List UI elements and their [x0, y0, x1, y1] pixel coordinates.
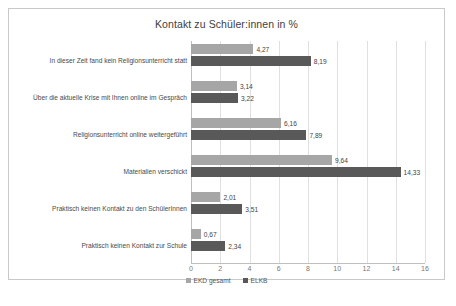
- x-axis-line: [191, 263, 425, 264]
- category-row: Religionsunterricht online weitergeführt…: [191, 115, 425, 152]
- legend-label: EKD gesamt: [194, 277, 231, 284]
- bar-ekd-gesamt[interactable]: [191, 44, 253, 54]
- category-label: In dieser Zeit fand kein Religionsunterr…: [50, 56, 187, 63]
- x-tick-label: 2: [218, 265, 222, 272]
- bar-elkb[interactable]: [191, 241, 225, 251]
- legend-item[interactable]: ELKB: [243, 277, 268, 284]
- plot-area: In dieser Zeit fand kein Religionsunterr…: [191, 41, 425, 263]
- category-label: Materialien verschickt: [124, 167, 187, 174]
- category-label: Über die aktuelle Krise mit Ihnen online…: [33, 93, 187, 100]
- bar-value-label: 2,34: [228, 243, 241, 250]
- x-tick-label: 4: [248, 265, 252, 272]
- bar-value-label: 14,33: [404, 169, 421, 176]
- category-row: Praktisch keinen Kontakt zur Schule0,672…: [191, 226, 425, 263]
- bar-value-label: 7,89: [309, 132, 322, 139]
- x-tick-label: 8: [306, 265, 310, 272]
- bar-ekd-gesamt[interactable]: [191, 155, 332, 165]
- category-label: Praktisch keinen Kontakt zu den SchülerI…: [52, 204, 187, 211]
- x-tick-label: 14: [392, 265, 400, 272]
- category-row: Praktisch keinen Kontakt zu den SchülerI…: [191, 189, 425, 226]
- bar-value-label: 2,01: [223, 194, 236, 201]
- gridline: [425, 41, 426, 263]
- legend-swatch-icon: [243, 278, 248, 283]
- bar-value-label: 8,19: [314, 58, 327, 65]
- bar-value-label: 9,64: [335, 157, 348, 164]
- category-row: Über die aktuelle Krise mit Ihnen online…: [191, 78, 425, 115]
- chart-frame: Kontakt zu Schüler:innen in % In dieser …: [8, 8, 445, 280]
- bar-value-label: 6,16: [284, 120, 297, 127]
- chart-title: Kontakt zu Schüler:innen in %: [9, 18, 444, 30]
- bar-value-label: 3,14: [240, 83, 253, 90]
- bar-elkb[interactable]: [191, 56, 311, 66]
- bar-elkb[interactable]: [191, 167, 401, 177]
- chart-page: Kontakt zu Schüler:innen in % In dieser …: [0, 0, 456, 306]
- x-tick-label: 10: [333, 265, 341, 272]
- bar-elkb[interactable]: [191, 93, 238, 103]
- bar-value-label: 0,67: [204, 231, 217, 238]
- x-tick-label: 16: [421, 265, 429, 272]
- bar-ekd-gesamt[interactable]: [191, 118, 281, 128]
- legend-swatch-icon: [186, 278, 191, 283]
- x-tick-label: 6: [277, 265, 281, 272]
- bar-elkb[interactable]: [191, 130, 306, 140]
- bar-value-label: 4,27: [256, 46, 269, 53]
- category-label: Religionsunterricht online weitergeführt: [73, 130, 187, 137]
- legend-label: ELKB: [251, 277, 268, 284]
- x-tick-label: 12: [363, 265, 371, 272]
- x-tick-label: 0: [189, 265, 193, 272]
- chart-legend: EKD gesamtELKB: [9, 277, 444, 284]
- bar-ekd-gesamt[interactable]: [191, 229, 201, 239]
- category-label: Praktisch keinen Kontakt zur Schule: [81, 241, 187, 248]
- legend-item[interactable]: EKD gesamt: [186, 277, 231, 284]
- bar-value-label: 3,22: [241, 95, 254, 102]
- bar-value-label: 3,51: [245, 206, 258, 213]
- category-row: In dieser Zeit fand kein Religionsunterr…: [191, 41, 425, 78]
- bar-elkb[interactable]: [191, 204, 242, 214]
- bar-ekd-gesamt[interactable]: [191, 192, 220, 202]
- category-row: Materialien verschickt9,6414,33: [191, 152, 425, 189]
- bar-ekd-gesamt[interactable]: [191, 81, 237, 91]
